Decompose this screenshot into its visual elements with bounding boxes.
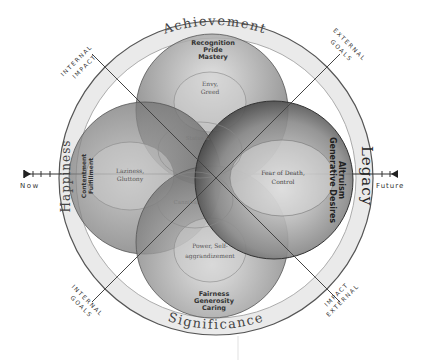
center-label-upper: Status & bbox=[186, 135, 211, 141]
bottom-virtue-3: Caring bbox=[202, 304, 226, 312]
left-virtue-2: Fulfillment bbox=[87, 158, 94, 194]
top-vice-1: Envy, bbox=[202, 80, 218, 88]
ring-label-left: Happiness bbox=[59, 140, 73, 213]
top-vice-2: Greed bbox=[201, 88, 220, 95]
motivation-diagram: Achievement Significance Happiness Legac… bbox=[0, 0, 433, 360]
right-vice-1: Fear of Death, bbox=[261, 169, 305, 176]
left-vice-1: Laziness, bbox=[116, 167, 144, 174]
left-vice-2: Gluttony bbox=[117, 175, 144, 183]
left-virtue-1: Contentment bbox=[80, 154, 87, 198]
center-label-lower: Cannibal bbox=[174, 199, 199, 205]
right-virtue-1: Altruism bbox=[337, 161, 346, 199]
axis-label-future: Future bbox=[376, 182, 404, 190]
right-virtue-2: Generative Desires bbox=[328, 137, 337, 223]
bottom-vice-1: Power, Self- bbox=[192, 242, 228, 249]
axis-label-now: Now bbox=[20, 182, 40, 190]
ring-label-right: Legacy bbox=[358, 146, 376, 206]
right-vice-2: Control bbox=[272, 178, 295, 185]
top-virtue-3: Mastery bbox=[198, 53, 228, 61]
bottom-vice-2: aggrandizement bbox=[185, 252, 235, 260]
